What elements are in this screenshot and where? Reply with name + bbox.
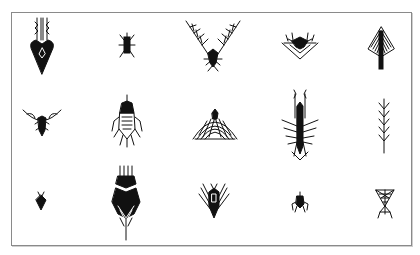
biomorph-dome [193, 109, 237, 141]
biomorph-spine [378, 99, 390, 153]
biomorph-beetle [291, 192, 309, 214]
biomorph-tiny-diamond [35, 192, 47, 210]
biomorph-kite [368, 27, 394, 71]
biomorph-fly [110, 95, 144, 147]
biomorph-fan [199, 180, 229, 220]
biomorph-rocket [112, 166, 140, 240]
biomorph-crown [282, 33, 318, 61]
biomorph-mantis [282, 90, 318, 162]
biomorph-web [376, 188, 394, 220]
biomorph-bat [23, 108, 61, 136]
biomorph-v-wings [186, 21, 240, 73]
biomorph-arrow [27, 18, 57, 76]
biomorph-small-bug [119, 33, 135, 59]
